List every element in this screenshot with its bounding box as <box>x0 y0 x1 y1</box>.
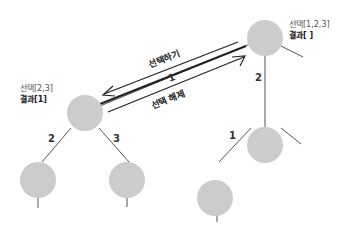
root-result-label: 결과[ ] <box>289 31 313 41</box>
edge-label-root-to-right: 2 <box>255 72 262 83</box>
edge-left-to-leftchild <box>42 128 71 162</box>
left-choices-label: 선택[2,3] <box>20 84 53 94</box>
root-choices-label: 선택[1,2,3] <box>289 20 330 30</box>
edge-label-left-to-rightchild: 3 <box>113 133 120 144</box>
edge-right-to-rightchild <box>281 128 301 144</box>
edge-root-extra <box>281 46 303 57</box>
node-left <box>67 95 103 131</box>
edge-label-right-to-leftchild: 1 <box>229 130 236 141</box>
node-root <box>247 20 283 56</box>
left-result-label: 결과[1] <box>20 95 47 105</box>
node-right-leftchild <box>197 180 233 216</box>
edge-label-left-to-leftchild: 2 <box>48 133 55 144</box>
node-left-rightchild <box>109 162 145 198</box>
node-right <box>247 127 283 163</box>
node-left-leftchild <box>20 162 56 198</box>
